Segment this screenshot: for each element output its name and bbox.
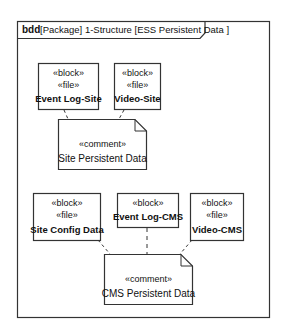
stereotype-block: «block»	[132, 198, 163, 208]
comment-stereotype: «comment»	[79, 139, 126, 149]
comment-text: CMS Persistent Data	[102, 288, 196, 299]
block-video-cms[interactable]: «block» «file» Video-CMS	[191, 194, 244, 241]
bdd-diagram: bdd [Package] 1-Structure [ESS Persisten…	[0, 0, 285, 336]
block-name: Event Log-CMS	[113, 211, 183, 222]
stereotype-block: «block»	[53, 68, 84, 78]
block-video-site[interactable]: «block» «file» Video-Site	[114, 64, 160, 110]
frame-title: [Package] 1-Structure [ESS Persistent Da…	[40, 24, 229, 35]
stereotype-block: «block»	[51, 198, 82, 208]
stereotype-file: «file»	[58, 80, 80, 90]
stereotype-block: «block»	[201, 198, 232, 208]
block-name: Site Config Data	[30, 224, 104, 235]
stereotype-block: «block»	[122, 68, 153, 78]
stereotype-file: «file»	[56, 210, 78, 220]
block-event-log-cms[interactable]: «block» Event Log-CMS	[113, 194, 183, 228]
block-name: Event Log-Site	[35, 93, 102, 104]
block-event-log-site[interactable]: «block» «file» Event Log-Site	[35, 64, 102, 110]
stereotype-file: «file»	[206, 210, 228, 220]
comment-text: Site Persistent Data	[58, 153, 147, 164]
comment-cms-persistent-data[interactable]: «comment» CMS Persistent Data	[102, 255, 196, 305]
comment-stereotype: «comment»	[125, 274, 172, 284]
block-name: Video-Site	[114, 93, 160, 104]
block-name: Video-CMS	[192, 224, 242, 235]
frame-kind: bdd	[22, 24, 40, 35]
stereotype-file: «file»	[127, 80, 149, 90]
block-site-config-data[interactable]: «block» «file» Site Config Data	[30, 194, 104, 241]
comment-site-persistent-data[interactable]: «comment» Site Persistent Data	[58, 120, 147, 170]
